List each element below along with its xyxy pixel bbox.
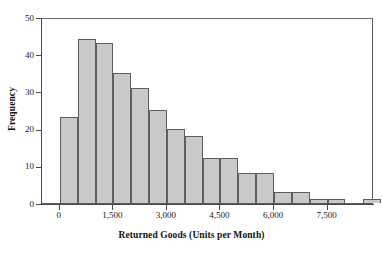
histogram-bar bbox=[96, 43, 114, 203]
histogram-bar bbox=[328, 199, 346, 203]
y-axis-tick-label: 30 bbox=[25, 88, 34, 97]
x-axis-line bbox=[41, 204, 374, 205]
x-axis-tick-label: 6,000 bbox=[263, 211, 283, 220]
histogram-bar bbox=[220, 158, 238, 203]
y-axis-title: Frequency bbox=[7, 69, 17, 149]
y-axis-tick bbox=[36, 167, 41, 168]
x-axis-tick-label: 1,500 bbox=[102, 211, 122, 220]
y-axis-tick-label: 0 bbox=[30, 200, 35, 209]
histogram-bar bbox=[256, 173, 274, 203]
bar-series bbox=[42, 19, 372, 203]
y-axis-tick-label: 40 bbox=[25, 51, 34, 60]
x-axis-tick-label: 0 bbox=[57, 211, 62, 220]
histogram-figure: 01020304050 01,5003,0004,5006,0007,500 R… bbox=[0, 0, 383, 258]
histogram-bar bbox=[363, 199, 381, 203]
histogram-bar bbox=[131, 88, 149, 203]
y-axis-tick-label: 50 bbox=[25, 14, 34, 23]
y-axis-tick-label: 10 bbox=[25, 162, 34, 171]
histogram-bar bbox=[203, 158, 221, 203]
histogram-bar bbox=[60, 117, 78, 203]
x-axis-tick-label: 7,500 bbox=[316, 211, 336, 220]
x-axis-title: Returned Goods (Units per Month) bbox=[0, 230, 383, 240]
histogram-bar bbox=[292, 192, 310, 203]
histogram-bar bbox=[310, 199, 328, 203]
histogram-bar bbox=[149, 110, 167, 203]
histogram-bar bbox=[238, 173, 256, 203]
y-axis-tick bbox=[36, 204, 41, 205]
y-axis-tick-label: 20 bbox=[25, 125, 34, 134]
histogram-bar bbox=[274, 192, 292, 203]
y-axis-tick bbox=[36, 130, 41, 131]
y-axis-tick bbox=[36, 18, 41, 19]
x-axis-tick-label: 3,000 bbox=[156, 211, 176, 220]
y-axis-tick bbox=[36, 92, 41, 93]
histogram-bar bbox=[167, 129, 185, 203]
histogram-bar bbox=[78, 39, 96, 203]
histogram-bar bbox=[113, 73, 131, 203]
plot-area bbox=[41, 18, 373, 204]
y-axis-tick bbox=[36, 55, 41, 56]
y-axis-line bbox=[41, 18, 42, 205]
x-axis-tick-label: 4,500 bbox=[209, 211, 229, 220]
histogram-bar bbox=[185, 136, 203, 203]
